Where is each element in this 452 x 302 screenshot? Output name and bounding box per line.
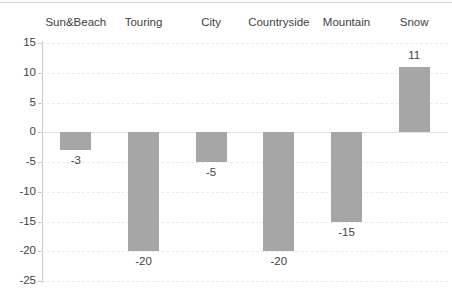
value-label: 11 (374, 50, 452, 62)
top-rule (0, 2, 452, 3)
y-axis-tick-label: 15 (8, 37, 36, 49)
bar (263, 132, 294, 251)
y-axis-tick-label: 5 (8, 97, 36, 109)
value-label: -5 (171, 167, 251, 179)
y-axis-tick-label: -25 (8, 275, 36, 287)
zero-line (42, 132, 448, 133)
gridline (42, 43, 448, 44)
gridline (42, 73, 448, 74)
bar (331, 132, 362, 221)
y-axis-tick-label: -5 (8, 156, 36, 168)
gridline (42, 192, 448, 193)
y-axis-tick-label: 10 (8, 67, 36, 79)
y-axis-tick-label: 0 (8, 126, 36, 138)
value-label: -3 (36, 155, 116, 167)
bar (399, 67, 430, 132)
bar-chart: 151050-5-10-15-20-25 Sun&BeachTouringCit… (0, 0, 452, 302)
gridline (42, 222, 448, 223)
bar (128, 132, 159, 251)
bar (196, 132, 227, 162)
y-axis-tick-label: -15 (8, 216, 36, 228)
gridline (42, 281, 448, 282)
y-axis-tick-label: -20 (8, 245, 36, 257)
bar (60, 132, 91, 150)
y-axis-tick-label: -10 (8, 186, 36, 198)
gridline (42, 251, 448, 252)
category-label: Snow (364, 17, 452, 29)
value-label: -15 (307, 227, 387, 239)
gridline (42, 103, 448, 104)
value-label: -20 (239, 256, 319, 268)
value-label: -20 (104, 256, 184, 268)
